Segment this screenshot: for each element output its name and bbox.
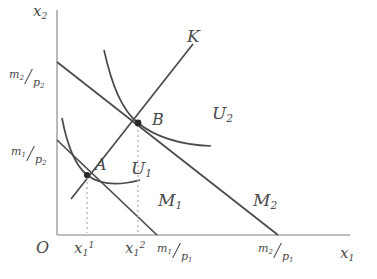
economics-diagram: x2 x1 O m2p2 m1p2 x11 x12 m1p1 m2p1 K U2…	[0, 0, 377, 279]
point-b-label: B	[152, 112, 164, 128]
x-tick-m2-over-p1: m2p1	[258, 240, 293, 260]
curve-label-u1: U1	[131, 160, 152, 179]
curve-label-m1: M1	[158, 192, 182, 211]
point-a-label: A	[95, 157, 107, 173]
curve-label-m2: M2	[253, 192, 277, 211]
y-tick-m1-over-p2: m1p2	[11, 143, 46, 163]
x-tick-x1-1: x11	[74, 240, 94, 257]
origin-label: O	[36, 240, 49, 256]
x-axis-label: x1	[340, 246, 354, 262]
x-tick-m1-over-p1: m1p1	[157, 240, 192, 260]
y-tick-m2-over-p2: m2p2	[9, 66, 44, 86]
indifference-curve-u2	[104, 50, 211, 146]
curve-label-k: K	[187, 28, 200, 45]
x-tick-x1-2: x12	[125, 240, 145, 257]
point-b-marker	[135, 120, 142, 127]
curve-label-u2: U2	[212, 105, 233, 124]
point-a-marker	[84, 172, 90, 178]
y-axis-label: x2	[33, 4, 47, 20]
